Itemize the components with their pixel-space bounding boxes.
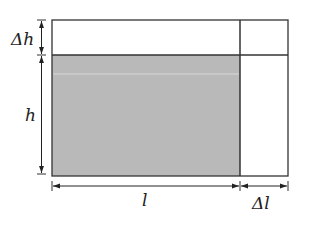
l-label: l — [142, 190, 147, 210]
area-expansion-diagram: Δh h l Δl — [0, 0, 310, 236]
h-label: h — [25, 105, 36, 125]
delta-h-label: Δh — [10, 29, 34, 49]
delta-l-label: Δl — [251, 193, 270, 213]
original-area-shaded — [52, 55, 240, 176]
